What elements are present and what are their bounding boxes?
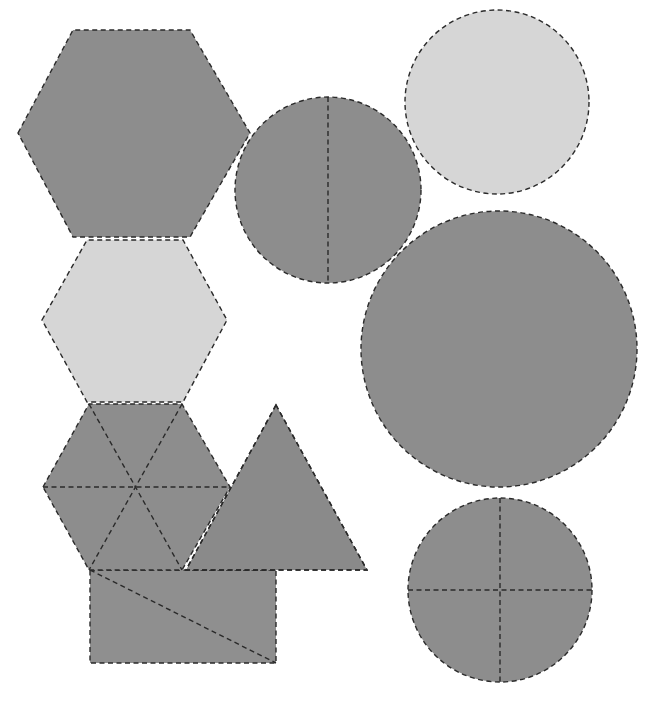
circle-light (405, 10, 589, 194)
hexagon-top (18, 30, 250, 237)
circle-quarters (408, 498, 592, 682)
rectangle-halves (90, 570, 276, 663)
circle-halves (235, 97, 421, 283)
hexagon-middle (42, 240, 227, 402)
circle-large (361, 211, 637, 487)
shapes-diagram (0, 0, 655, 709)
